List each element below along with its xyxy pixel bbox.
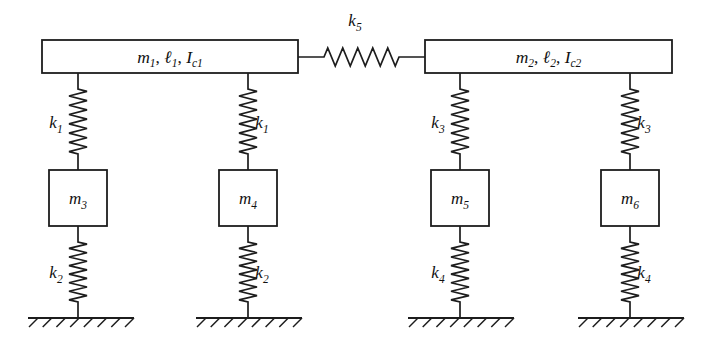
ground-3-hatch xyxy=(409,318,418,327)
ground-4-hatch xyxy=(675,318,684,327)
ground-3-hatch xyxy=(436,318,445,327)
ground-4-hatch xyxy=(661,318,670,327)
spring-k1-right-label: k1 xyxy=(255,113,268,135)
ground-2-hatch xyxy=(211,318,220,327)
ground-1-hatch xyxy=(98,318,107,327)
ground-2-hatch xyxy=(197,318,206,327)
ground-4-hatch xyxy=(620,318,629,327)
spring-k2-left-label: k2 xyxy=(49,263,63,285)
spring-k3-right-label: k3 xyxy=(637,113,651,135)
ground-2-hatch xyxy=(238,318,247,327)
spring-k1-right xyxy=(239,73,257,170)
ground-3-hatch xyxy=(491,318,500,327)
ground-1-hatch xyxy=(84,318,93,327)
ground-3-hatch xyxy=(478,318,487,327)
ground-1-hatch xyxy=(56,318,65,327)
mechanical-system-diagram: m1, ℓ1, Ic1m2, ℓ2, Ic2m3m4m5m6k1k1k3k3k2… xyxy=(0,0,708,349)
spring-k2-left xyxy=(69,226,87,318)
ground-2-hatch xyxy=(293,318,302,327)
spring-k2-right xyxy=(239,226,257,318)
spring-k3-left-label: k3 xyxy=(431,113,445,135)
ground-2-hatch xyxy=(252,318,261,327)
ground-1-hatch xyxy=(111,318,120,327)
ground-3-hatch xyxy=(450,318,459,327)
ground-4-hatch xyxy=(648,318,657,327)
ground-4-hatch xyxy=(634,318,643,327)
ground-1-hatch xyxy=(70,318,79,327)
ground-4-hatch xyxy=(593,318,602,327)
spring-k3-right xyxy=(621,73,639,170)
spring-k5-coupler-label: k5 xyxy=(348,11,362,33)
spring-k4-left-label: k4 xyxy=(431,263,445,285)
ground-2-hatch xyxy=(266,318,275,327)
spring-k1-left-label: k1 xyxy=(49,113,62,135)
spring-k4-left xyxy=(451,226,469,318)
ground-4-hatch xyxy=(579,318,588,327)
spring-k2-right-label: k2 xyxy=(255,263,269,285)
ground-1-hatch xyxy=(125,318,134,327)
ground-2-hatch xyxy=(279,318,288,327)
schematic-canvas: m1, ℓ1, Ic1m2, ℓ2, Ic2m3m4m5m6k1k1k3k3k2… xyxy=(0,0,708,349)
ground-1-hatch xyxy=(43,318,52,327)
spring-layer xyxy=(69,48,639,318)
ground-1-hatch xyxy=(29,318,38,327)
ground-3-hatch xyxy=(423,318,432,327)
ground-3-hatch xyxy=(505,318,514,327)
ground-4-hatch xyxy=(606,318,615,327)
spring-k4-right-label: k4 xyxy=(637,263,651,285)
label-layer: m1, ℓ1, Ic1m2, ℓ2, Ic2m3m4m5m6k1k1k3k3k2… xyxy=(49,11,651,285)
ground-3-hatch xyxy=(464,318,473,327)
ground-layer xyxy=(28,318,684,327)
ground-2-hatch xyxy=(224,318,233,327)
spring-k1-left xyxy=(69,73,87,170)
spring-k5-coupler xyxy=(298,48,425,66)
spring-k4-right xyxy=(621,226,639,318)
spring-k3-left xyxy=(451,73,469,170)
